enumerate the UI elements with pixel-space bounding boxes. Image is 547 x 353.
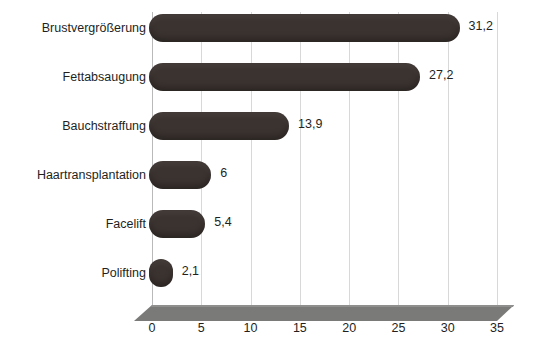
x-tick-label: 5 bbox=[198, 321, 205, 335]
chart-floor-3d bbox=[134, 305, 514, 321]
category-axis: Brustvergrößerung Fettabsaugung Bauchstr… bbox=[0, 12, 146, 305]
x-tick-label: 10 bbox=[244, 321, 258, 335]
bar-chart: Brustvergrößerung Fettabsaugung Bauchstr… bbox=[0, 0, 547, 353]
category-label: Bauchstraffung bbox=[62, 110, 146, 142]
x-tick-label: 0 bbox=[149, 321, 156, 335]
bar-value-label: 5,4 bbox=[214, 215, 231, 229]
bar-row: 2,1 bbox=[152, 257, 497, 289]
bar-row: 6 bbox=[152, 159, 497, 191]
plot-area: 31,2 27,2 13,9 6 5,4 2,1 bbox=[152, 12, 497, 305]
category-label: Polifting bbox=[102, 257, 146, 289]
bar-row: 13,9 bbox=[152, 110, 497, 142]
bar-row: 31,2 bbox=[152, 12, 497, 44]
floor-shape-icon bbox=[134, 305, 514, 321]
bars-layer: 31,2 27,2 13,9 6 5,4 2,1 bbox=[152, 12, 497, 305]
value-axis: 05101520253035 bbox=[0, 321, 547, 343]
bar-value-label: 31,2 bbox=[469, 19, 493, 33]
bar-row: 27,2 bbox=[152, 61, 497, 93]
bar bbox=[149, 63, 420, 91]
category-label: Brustvergrößerung bbox=[42, 12, 146, 44]
x-tick-label: 25 bbox=[391, 321, 405, 335]
bar bbox=[149, 161, 211, 189]
bar bbox=[149, 259, 173, 287]
bar bbox=[149, 112, 289, 140]
x-tick-label: 35 bbox=[490, 321, 504, 335]
bar bbox=[149, 14, 460, 42]
bar-value-label: 2,1 bbox=[182, 264, 199, 278]
bar-row: 5,4 bbox=[152, 208, 497, 240]
category-label: Fettabsaugung bbox=[63, 61, 146, 93]
x-tick-label: 30 bbox=[441, 321, 455, 335]
x-tick-label: 20 bbox=[342, 321, 356, 335]
gridline bbox=[497, 12, 498, 305]
category-label: Haartransplantation bbox=[37, 159, 146, 191]
bar-value-label: 6 bbox=[220, 166, 227, 180]
x-tick-label: 15 bbox=[293, 321, 307, 335]
category-label: Facelift bbox=[106, 208, 146, 240]
bar bbox=[149, 210, 205, 238]
bar-value-label: 27,2 bbox=[429, 68, 453, 82]
bar-value-label: 13,9 bbox=[298, 117, 322, 131]
